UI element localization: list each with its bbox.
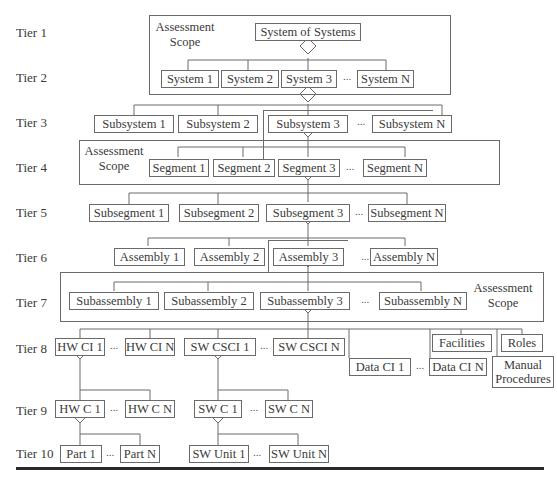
node-assembly-n[interactable]: Assembly N [370, 248, 438, 266]
node-hw-c-1[interactable]: HW C 1 [55, 400, 105, 418]
ellipsis: ... [361, 293, 369, 305]
node-hw-ci-1[interactable]: HW CI 1 [55, 338, 105, 356]
node-hw-c-n[interactable]: HW C N [125, 400, 175, 418]
node-data-ci-1[interactable]: Data CI 1 [349, 358, 411, 376]
node-system-2[interactable]: System 2 [221, 70, 279, 88]
node-subsegment-3[interactable]: Subsegment 3 [266, 204, 350, 222]
node-sw-unit-n[interactable]: SW Unit N [269, 445, 329, 463]
node-sw-unit-1[interactable]: SW Unit 1 [189, 445, 249, 463]
ellipsis: ... [110, 339, 118, 351]
tier-label-10: Tier 10 [16, 446, 53, 462]
ellipsis: ... [260, 339, 268, 351]
ellipsis: ... [110, 401, 118, 413]
node-system-3[interactable]: System 3 [281, 70, 337, 88]
node-hw-ci-n[interactable]: HW CI N [125, 338, 175, 356]
node-subsegment-2[interactable]: Subsegment 2 [179, 204, 259, 222]
ellipsis: ... [416, 359, 424, 371]
node-subassembly-1[interactable]: Subassembly 1 [69, 292, 159, 310]
tier-label-4: Tier 4 [16, 160, 47, 176]
node-roles[interactable]: Roles [501, 334, 543, 352]
tier-label-7: Tier 7 [16, 295, 47, 311]
assessment-scope-label: AssessmentScope [155, 20, 215, 50]
node-sw-csci-1[interactable]: SW CSCI 1 [184, 338, 256, 356]
node-segment-n[interactable]: Segment N [363, 159, 427, 177]
node-assembly-3[interactable]: Assembly 3 [273, 248, 344, 266]
tier-label-6: Tier 6 [16, 250, 47, 266]
node-assembly-2[interactable]: Assembly 2 [194, 248, 265, 266]
node-subassembly-n[interactable]: Subassembly N [379, 292, 467, 310]
node-part-1[interactable]: Part 1 [60, 445, 102, 463]
node-segment-1[interactable]: Segment 1 [149, 159, 209, 177]
node-subsystem-n[interactable]: Subsystem N [372, 115, 452, 133]
tier-label-9: Tier 9 [16, 403, 47, 419]
node-facilities[interactable]: Facilities [432, 334, 492, 352]
node-subsystem-1[interactable]: Subsystem 1 [94, 115, 174, 133]
ellipsis: ... [355, 205, 363, 217]
node-system-n[interactable]: System N [357, 70, 414, 88]
node-subassembly-3[interactable]: Subassembly 3 [260, 292, 350, 310]
ellipsis: ... [106, 446, 114, 458]
ellipsis: ... [357, 115, 365, 127]
node-sw-csci-n[interactable]: SW CSCI N [273, 338, 345, 356]
node-sw-c-n[interactable]: SW C N [265, 400, 313, 418]
node-system-of-systems[interactable]: System of Systems [255, 23, 361, 41]
node-subassembly-2[interactable]: Subassembly 2 [164, 292, 254, 310]
node-subsegment-n[interactable]: Subsegment N [368, 204, 446, 222]
tier-label-8: Tier 8 [16, 341, 47, 357]
tier-label-5: Tier 5 [16, 205, 47, 221]
tier-label-3: Tier 3 [16, 115, 47, 131]
ellipsis: ... [253, 446, 261, 458]
ellipsis: ... [361, 250, 369, 262]
node-manual-procedures[interactable]: ManualProcedures [492, 356, 554, 388]
assessment-scope-label: AssessmentScope [84, 144, 144, 174]
node-subsegment-1[interactable]: Subsegment 1 [89, 204, 169, 222]
tier-label-1: Tier 1 [16, 25, 47, 41]
ellipsis: ... [343, 70, 351, 82]
node-segment-2[interactable]: Segment 2 [213, 159, 275, 177]
node-segment-3[interactable]: Segment 3 [278, 159, 340, 177]
node-data-ci-n[interactable]: Data CI N [429, 358, 487, 376]
node-subsystem-3[interactable]: Subsystem 3 [268, 115, 348, 133]
tier-label-2: Tier 2 [16, 70, 47, 86]
bottom-rule [16, 467, 544, 470]
node-subsystem-2[interactable]: Subsystem 2 [178, 115, 258, 133]
assessment-scope-label: AssessmentScope [470, 281, 536, 311]
node-system-1[interactable]: System 1 [161, 70, 219, 88]
node-sw-c-1[interactable]: SW C 1 [194, 400, 242, 418]
node-part-n[interactable]: Part N [120, 445, 160, 463]
ellipsis: ... [250, 401, 258, 413]
ellipsis: ... [346, 160, 354, 172]
node-assembly-1[interactable]: Assembly 1 [114, 248, 185, 266]
